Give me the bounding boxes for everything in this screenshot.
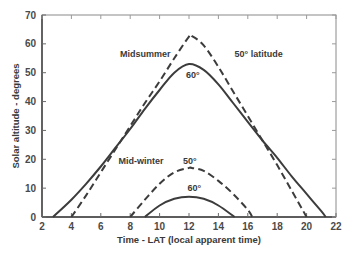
series-line-3: [145, 197, 235, 217]
y-tick-label: 20: [25, 154, 37, 165]
x-tick-label: 18: [272, 221, 284, 232]
x-tick-label: 16: [242, 221, 254, 232]
x-tick-label: 6: [98, 221, 104, 232]
annotation-winter60: 60°: [188, 183, 202, 193]
x-tick-label: 12: [183, 221, 195, 232]
y-tick-label: 50: [25, 67, 37, 78]
y-tick-label: 10: [25, 183, 37, 194]
annotations: Midsummer50° latitude60°Mid-winter50°60°: [118, 49, 282, 193]
x-tick-label: 22: [330, 221, 342, 232]
annotation-lat50: 50° latitude: [235, 49, 283, 59]
series-line-1: [53, 64, 326, 217]
x-tick-label: 10: [154, 221, 166, 232]
x-tick-label: 4: [69, 221, 75, 232]
annotation-midwinter: Mid-winter: [118, 156, 163, 166]
x-tick-label: 2: [39, 221, 45, 232]
y-tick-label: 60: [25, 38, 37, 49]
y-tick-label: 30: [25, 125, 37, 136]
x-tick-label: 8: [127, 221, 133, 232]
solar-altitude-chart: 246810121416182022010203040506070 Midsum…: [0, 0, 353, 253]
x-axis-title: Time - LAT (local apparent time): [117, 234, 261, 245]
x-tick-label: 14: [213, 221, 225, 232]
annotation-midsummer: Midsummer: [120, 49, 171, 59]
y-tick-label: 70: [25, 10, 37, 21]
y-tick-label: 40: [25, 96, 37, 107]
y-axis-title: Solar altitude - degrees: [10, 63, 21, 168]
y-tick-label: 0: [30, 212, 36, 223]
annotation-summer60: 60°: [186, 70, 200, 80]
annotation-winter50: 50°: [183, 156, 197, 166]
x-tick-label: 20: [301, 221, 313, 232]
